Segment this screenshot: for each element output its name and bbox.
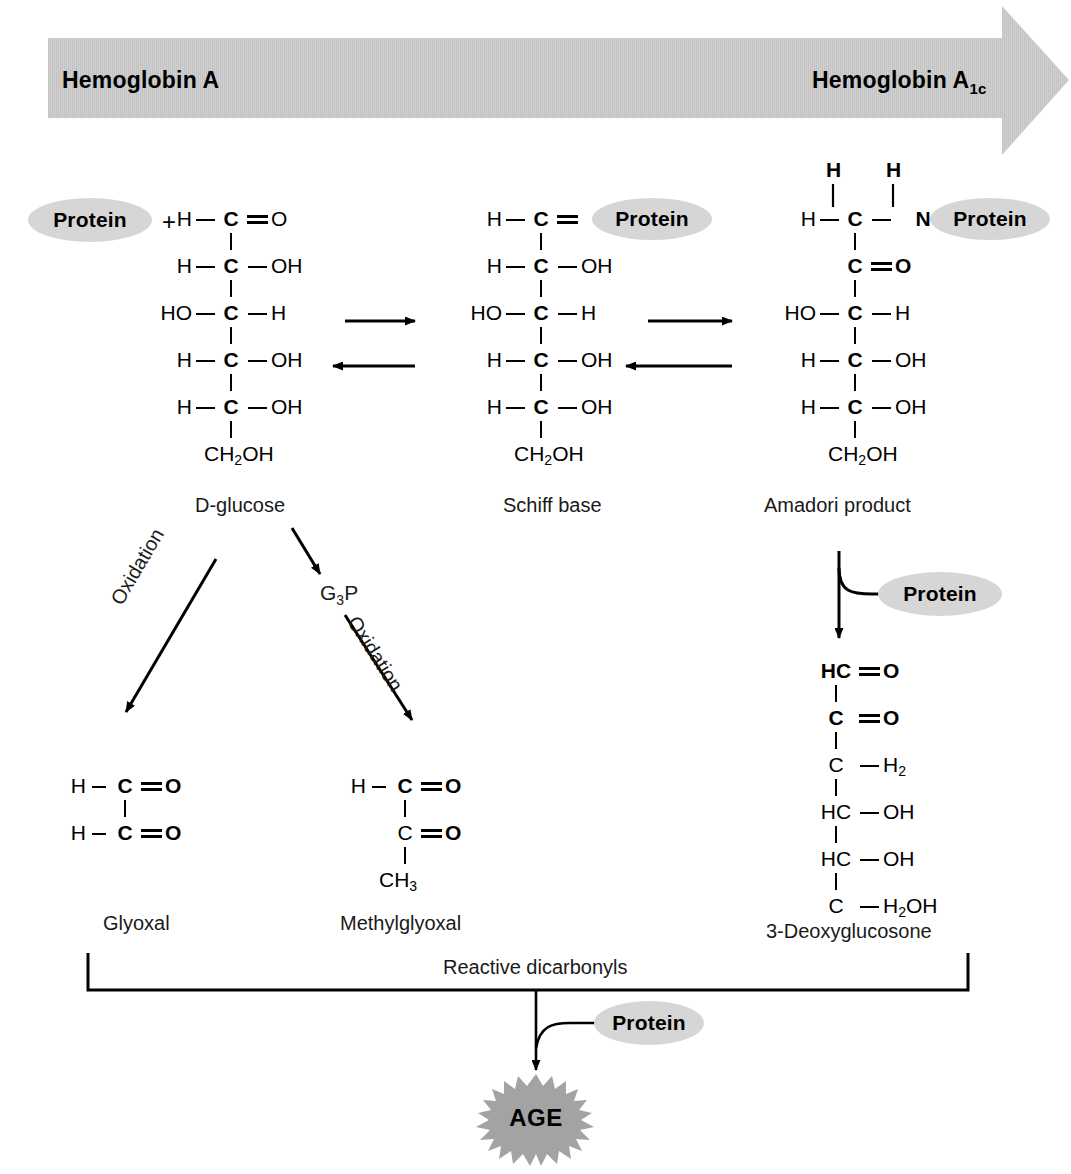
bond-left — [816, 344, 842, 374]
atom-core: C — [816, 890, 856, 920]
label-oxidation-g3p: Oxidation — [343, 612, 408, 696]
caption-glyoxal: Glyoxal — [103, 912, 170, 935]
mol-row: CH3 — [340, 864, 471, 894]
label-oxidation-glucose: Oxidation — [106, 525, 169, 609]
atom-core: HC — [816, 843, 856, 873]
atom-label: OH — [581, 391, 637, 421]
bond-right — [138, 817, 165, 847]
atom-core: C — [842, 391, 868, 421]
caption-amadori-product: Amadori product — [764, 494, 911, 517]
atom-core: C — [392, 817, 418, 847]
protein-label: Protein — [612, 1011, 686, 1035]
protein-label: Protein — [953, 207, 1027, 231]
label-reactive-dicarbonyls: Reactive dicarbonyls — [443, 956, 628, 979]
caption-schiff-base: Schiff base — [503, 494, 602, 517]
atom-label: H2OH — [883, 890, 953, 920]
protein-ellipse-amadori: Protein — [930, 198, 1050, 240]
atom-label: O — [883, 655, 953, 685]
atom-core-terminal: CH2OH — [218, 438, 327, 468]
vertical-bond — [842, 233, 868, 250]
protein-label: Protein — [903, 582, 977, 606]
vertical-bond — [528, 327, 554, 344]
atom-label: OH — [271, 344, 327, 374]
bond-right — [868, 250, 895, 280]
arrow-glucose-to-g3p — [292, 528, 320, 574]
vertical-bond — [218, 280, 244, 297]
mol-row: H C OH — [448, 344, 667, 374]
bond-right — [856, 702, 883, 732]
atom-label: H2 — [883, 749, 953, 779]
vertical-bond — [842, 280, 868, 297]
atom-label: H — [448, 391, 502, 421]
vertical-bond — [816, 685, 856, 702]
label-g3p: G3P — [320, 581, 358, 608]
atom-label: HO — [762, 297, 816, 327]
bond-left — [816, 297, 842, 327]
atom-core: C — [218, 344, 244, 374]
atom-label: H — [762, 203, 816, 233]
bond-left — [816, 250, 842, 280]
vertical-bond — [816, 779, 856, 796]
atom-core: C — [528, 391, 554, 421]
mol-row: H C O — [60, 770, 191, 800]
bond-right — [868, 344, 895, 374]
bond-right — [554, 391, 581, 421]
atom-core: C — [112, 770, 138, 800]
bond-left — [86, 770, 112, 800]
mol-row: C H2 — [782, 749, 953, 779]
atom-label: OH — [895, 391, 951, 421]
mol-row: HO C H — [138, 297, 327, 327]
age-burst: AGE — [472, 1072, 600, 1168]
vertical-bond — [392, 800, 418, 817]
atom-core: C — [842, 297, 868, 327]
atom-label: O — [165, 817, 191, 847]
atom-core: C — [842, 344, 868, 374]
atom-label: HO — [138, 297, 192, 327]
atom-label — [782, 749, 812, 779]
vertical-bond — [816, 732, 856, 749]
atom-core: C — [392, 770, 418, 800]
atom-core: HC — [816, 796, 856, 826]
atom-label — [782, 655, 812, 685]
atom-label: OH — [895, 344, 951, 374]
atom-label — [782, 702, 812, 732]
atom-core: C — [528, 344, 554, 374]
protein-ellipse-deoxyglucosone: Protein — [878, 572, 1002, 616]
atom-core-terminal: CH2OH — [842, 438, 981, 468]
molecule-amadori-product: H C N C O HO C H — [762, 203, 981, 468]
bond-right — [554, 344, 581, 374]
bond-left — [816, 203, 842, 233]
bond-left — [502, 344, 528, 374]
atom-label: O — [165, 770, 191, 800]
mol-row: HC OH — [782, 843, 953, 873]
mol-row: H C OH — [762, 391, 981, 421]
mol-row: C H2OH — [782, 890, 953, 920]
bond-left — [502, 391, 528, 421]
atom-label: H — [448, 344, 502, 374]
atom-label: O — [445, 817, 471, 847]
molecule-methylglyoxal: H C O C O CH3 — [340, 770, 471, 894]
bond-right — [856, 796, 883, 826]
bond-right — [244, 391, 271, 421]
mol-row: H C OH — [138, 391, 327, 421]
mol-row: CH2OH — [448, 438, 667, 468]
age-label: AGE — [472, 1104, 600, 1132]
atom-core: C — [528, 297, 554, 327]
bond-right — [868, 391, 895, 421]
atom-label: OH — [271, 391, 327, 421]
vertical-bond — [528, 374, 554, 391]
bond-right — [554, 297, 581, 327]
atom-label — [782, 843, 812, 873]
caption-d-glucose: D-glucose — [195, 494, 285, 517]
mol-row: H C OH — [448, 391, 667, 421]
vertical-bond — [112, 800, 138, 817]
bond-left — [366, 817, 392, 847]
atom-core: HC — [816, 655, 856, 685]
atom-label: OH — [581, 344, 637, 374]
mol-row: HO C H — [762, 297, 981, 327]
vertical-bond — [816, 873, 856, 890]
bond-right — [418, 817, 445, 847]
bond-right — [244, 344, 271, 374]
bond-left — [192, 297, 218, 327]
mol-row: H C OH — [762, 344, 981, 374]
